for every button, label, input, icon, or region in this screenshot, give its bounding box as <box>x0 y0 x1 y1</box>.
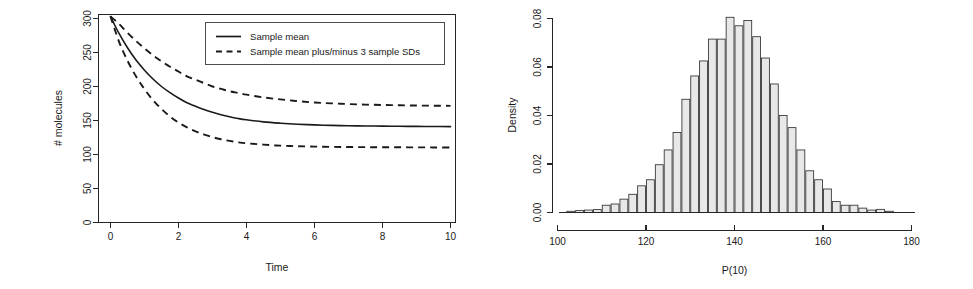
histogram-bar <box>770 84 778 213</box>
x-tick-label-3: 160 <box>815 236 832 247</box>
histogram-bar <box>753 37 761 213</box>
y-tick-label-3: 0.06 <box>532 57 543 77</box>
x-tick-label-4: 180 <box>903 236 920 247</box>
histogram-bar <box>655 165 663 213</box>
x-tick-label-0: 0 <box>108 231 114 242</box>
histogram-bar <box>832 202 840 213</box>
histogram-bar <box>762 58 770 212</box>
histogram-bar <box>815 180 823 213</box>
y-axis-ticks <box>93 19 99 223</box>
x-tick-label-2: 4 <box>244 231 250 242</box>
histogram-bar <box>708 39 716 212</box>
x-tick-label-3: 6 <box>312 231 318 242</box>
y-axis-title: Density <box>506 97 518 133</box>
chart-panel-molecules-vs-time: 0 50 100 150 200 250 300 # molecules 0 <box>0 0 487 289</box>
histogram-bar <box>611 204 619 212</box>
y-tick-label-3: 150 <box>82 112 93 129</box>
legend-label-sample-mean: Sample mean <box>250 31 309 42</box>
histogram-bar <box>647 180 655 213</box>
y-axis-title: # molecules <box>52 90 64 146</box>
histogram-bar <box>691 76 699 213</box>
histogram-bar <box>682 99 690 212</box>
y-tick-label-2: 0.04 <box>532 105 543 125</box>
legend-label-sample-sds: Sample mean plus/minus 3 sample SDs <box>250 46 420 57</box>
p10-density-histogram-svg: 0.00 0.02 0.04 0.06 0.08 Density 1 <box>487 0 973 289</box>
histogram-bar <box>620 199 628 212</box>
y-tick-label-0: 0.00 <box>532 202 543 222</box>
x-tick-label-5: 10 <box>445 231 457 242</box>
y-axis-tick-labels: 0 50 100 150 200 250 300 <box>82 10 93 226</box>
y-tick-label-4: 0.08 <box>532 8 543 28</box>
histogram-bar <box>788 128 796 213</box>
histogram-bar <box>717 39 725 212</box>
y-tick-label-0: 0 <box>82 219 93 225</box>
histogram-bar <box>629 194 637 212</box>
legend-box <box>206 23 445 65</box>
x-tick-label-4: 8 <box>380 231 386 242</box>
x-tick-label-2: 140 <box>726 236 743 247</box>
y-axis-tick-labels: 0.00 0.02 0.04 0.06 0.08 <box>532 8 543 222</box>
figure-root: 0 50 100 150 200 250 300 # molecules 0 <box>0 0 973 289</box>
x-tick-label-1: 2 <box>176 231 182 242</box>
y-tick-label-1: 0.02 <box>532 154 543 174</box>
histogram-bar <box>638 186 646 213</box>
histogram-bars <box>567 17 893 212</box>
legend: Sample mean Sample mean plus/minus 3 sam… <box>206 23 445 65</box>
y-axis <box>547 19 553 213</box>
histogram-bar <box>779 116 787 213</box>
histogram-bar <box>850 205 858 212</box>
chart-panel-p10-density-histogram: 0.00 0.02 0.04 0.06 0.08 Density 1 <box>487 0 973 289</box>
histogram-bar <box>859 208 867 212</box>
histogram-bar <box>797 150 805 213</box>
histogram-bar <box>735 26 743 213</box>
y-tick-label-2: 100 <box>82 146 93 163</box>
histogram-bar <box>673 132 681 212</box>
histogram-bar <box>726 17 734 212</box>
x-axis <box>558 225 912 231</box>
y-tick-label-6: 300 <box>82 10 93 27</box>
histogram-bar <box>664 150 672 213</box>
histogram-bar <box>806 171 814 213</box>
histogram-bar <box>744 20 752 212</box>
molecules-vs-time-svg: 0 50 100 150 200 250 300 # molecules 0 <box>0 0 487 289</box>
x-axis-tick-labels: 0 2 4 6 8 10 <box>108 231 457 242</box>
histogram-bar <box>700 61 708 213</box>
x-axis-tick-labels: 100 120 140 160 180 <box>549 236 920 247</box>
x-tick-label-1: 120 <box>638 236 655 247</box>
x-axis-title: Time <box>266 261 289 273</box>
histogram-bar <box>602 205 610 212</box>
x-axis-title: P(10) <box>722 264 748 276</box>
histogram-bar <box>841 205 849 212</box>
y-tick-label-5: 250 <box>82 44 93 61</box>
histogram-bar <box>824 189 832 213</box>
y-tick-label-1: 50 <box>82 183 93 195</box>
x-tick-label-0: 100 <box>549 236 566 247</box>
y-tick-label-4: 200 <box>82 78 93 95</box>
x-axis-ticks <box>111 223 451 229</box>
